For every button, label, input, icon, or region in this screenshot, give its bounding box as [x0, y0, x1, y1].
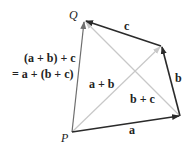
- label-a: a: [129, 123, 135, 137]
- vector-diagram: Q P c b a a + b b + c (a + b) + c = a + …: [0, 0, 191, 150]
- equation-line-1: (a + b) + c: [24, 51, 76, 65]
- point-p-label: P: [60, 131, 69, 145]
- label-a-plus-b: a + b: [89, 77, 115, 91]
- equation-line-2: = a + (b + c): [12, 67, 74, 81]
- vector-sum: [72, 22, 84, 132]
- point-q-label: Q: [69, 8, 78, 22]
- vector-a-plus-b: [72, 47, 160, 132]
- vector-a: [72, 116, 179, 132]
- label-b: b: [175, 71, 182, 85]
- label-c: c: [124, 19, 130, 33]
- label-b-plus-c: b + c: [130, 92, 156, 106]
